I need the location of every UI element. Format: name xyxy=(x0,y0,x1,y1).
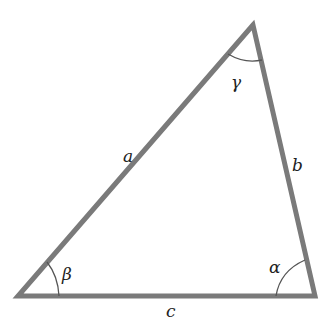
angle-arc-beta xyxy=(47,262,59,296)
triangle-diagram: a b c γ β α xyxy=(0,0,332,332)
angle-label-beta: β xyxy=(61,264,72,284)
side-label-c: c xyxy=(166,301,176,321)
angle-label-gamma: γ xyxy=(231,72,242,92)
triangle xyxy=(18,25,315,296)
angle-label-alpha: α xyxy=(269,257,281,277)
side-label-b: b xyxy=(292,155,303,175)
angle-arc-gamma xyxy=(228,54,262,61)
side-label-a: a xyxy=(123,146,133,166)
